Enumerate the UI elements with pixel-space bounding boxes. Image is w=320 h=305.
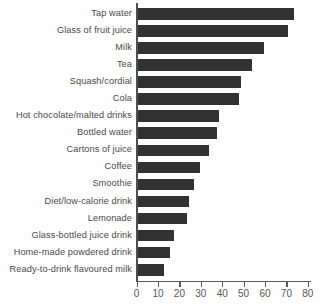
x-tick bbox=[158, 281, 159, 287]
x-axis-line bbox=[136, 281, 311, 282]
x-tick-label: 80 bbox=[302, 288, 313, 299]
bar-chart-figure: Tap waterGlass of fruit juiceMilkTeaSqua… bbox=[0, 0, 320, 305]
x-tick bbox=[265, 281, 266, 287]
x-tick bbox=[201, 281, 202, 287]
x-tick-label: 50 bbox=[238, 288, 249, 299]
category-label: Glass-bottled juice drink bbox=[0, 231, 132, 240]
x-tick-label: 10 bbox=[152, 288, 163, 299]
bar bbox=[138, 76, 241, 88]
bar bbox=[138, 196, 189, 208]
bar bbox=[138, 162, 200, 174]
bar bbox=[138, 110, 219, 122]
category-label: Tea bbox=[0, 60, 132, 69]
bar bbox=[138, 264, 164, 276]
category-label: Cartons of juice bbox=[0, 146, 132, 155]
x-tick-label: 40 bbox=[217, 288, 228, 299]
category-label: Cola bbox=[0, 94, 132, 103]
x-tick-label: 60 bbox=[259, 288, 270, 299]
bar bbox=[138, 8, 294, 20]
bar bbox=[138, 42, 264, 54]
x-tick-label: 20 bbox=[174, 288, 185, 299]
bar bbox=[138, 230, 174, 242]
bar bbox=[138, 213, 187, 225]
category-label: Milk bbox=[0, 43, 132, 52]
bar bbox=[138, 93, 239, 105]
x-tick bbox=[244, 281, 245, 287]
bar bbox=[138, 179, 194, 191]
category-label: Ready-to-drink flavoured milk bbox=[0, 265, 132, 274]
bar bbox=[138, 59, 251, 71]
x-tick-label: 30 bbox=[195, 288, 206, 299]
x-tick bbox=[179, 281, 180, 287]
category-label: Smoothie bbox=[0, 180, 132, 189]
x-tick-label: 0 bbox=[134, 288, 140, 299]
x-tick bbox=[222, 281, 223, 287]
bar bbox=[138, 145, 209, 157]
category-label: Home-made powdered drink bbox=[0, 248, 132, 257]
category-label: Hot chocolate/malted drinks bbox=[0, 112, 132, 121]
category-label: Glass of fruit juice bbox=[0, 26, 132, 35]
category-label: Diet/low-calorie drink bbox=[0, 197, 132, 206]
bar bbox=[138, 247, 170, 259]
category-label: Lemonade bbox=[0, 214, 132, 223]
category-label: Bottled water bbox=[0, 129, 132, 138]
x-tick bbox=[137, 281, 138, 287]
bar bbox=[138, 127, 217, 139]
category-label: Tap water bbox=[0, 9, 132, 18]
x-tick bbox=[286, 281, 287, 287]
category-label: Coffee bbox=[0, 163, 132, 172]
category-label: Squash/cordial bbox=[0, 77, 132, 86]
x-tick-label: 70 bbox=[281, 288, 292, 299]
x-tick bbox=[308, 281, 309, 287]
bar bbox=[138, 25, 288, 37]
